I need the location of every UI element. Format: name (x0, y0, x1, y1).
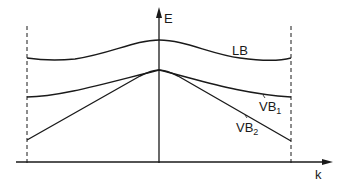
band-label-LB-text: LB (232, 43, 248, 58)
band-label-VB1-text: VB (259, 99, 276, 114)
k-axis-arrow-icon (322, 159, 333, 165)
e-axis-arrow-icon (156, 7, 162, 18)
band-label-LB: LB (232, 44, 248, 57)
band-structure-diagram: E k LB VB1 VB2 (0, 0, 347, 181)
band-label-VB2-text: VB (236, 120, 253, 135)
e-axis-label: E (164, 12, 173, 25)
band-label-VB2: VB2 (236, 121, 258, 137)
diagram-svg (0, 0, 347, 181)
band-label-VB2-sub: 2 (253, 127, 258, 137)
band-label-VB1: VB1 (259, 100, 281, 116)
vb1-leader (263, 95, 265, 98)
k-axis-label: k (315, 168, 322, 181)
band-label-VB1-sub: 1 (276, 106, 281, 116)
